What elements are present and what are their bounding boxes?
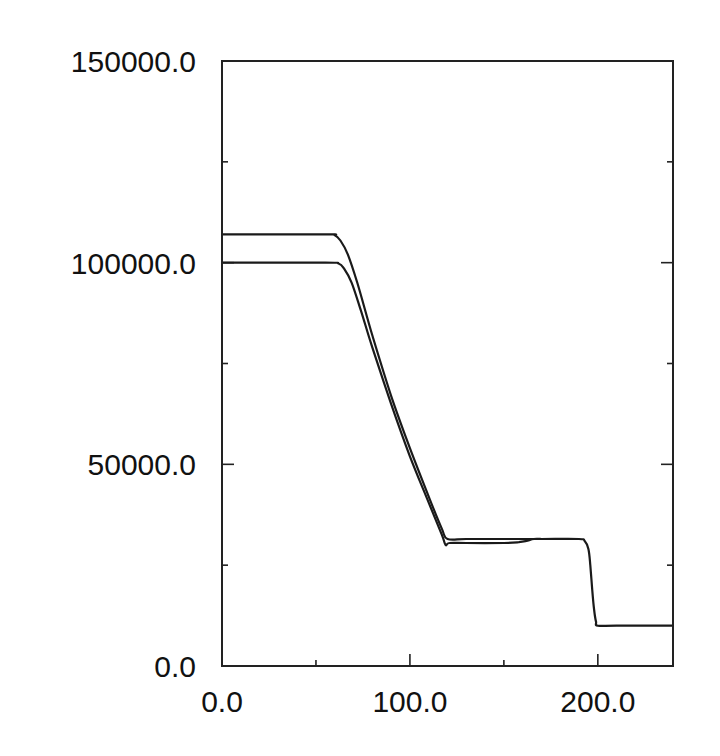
x-axis-ticks (222, 654, 598, 666)
y-tick-label: 100000.0 (71, 247, 196, 280)
y-tick-label: 50000.0 (88, 448, 196, 481)
series-line-lower (222, 263, 542, 546)
y-tick-label: 150000.0 (71, 45, 196, 78)
plot-frame (222, 61, 673, 666)
x-tick-label: 200.0 (560, 685, 635, 718)
plot-series (222, 234, 673, 626)
y-tick-label: 0.0 (154, 650, 196, 683)
y-axis-ticks (222, 61, 673, 666)
line-chart: 0.050000.0100000.0150000.0 0.0100.0200.0 (0, 0, 720, 756)
series-line-upper (222, 234, 673, 626)
y-axis-tick-labels: 0.050000.0100000.0150000.0 (71, 45, 196, 683)
x-tick-label: 100.0 (372, 685, 447, 718)
x-axis-tick-labels: 0.0100.0200.0 (201, 685, 635, 718)
x-tick-label: 0.0 (201, 685, 243, 718)
